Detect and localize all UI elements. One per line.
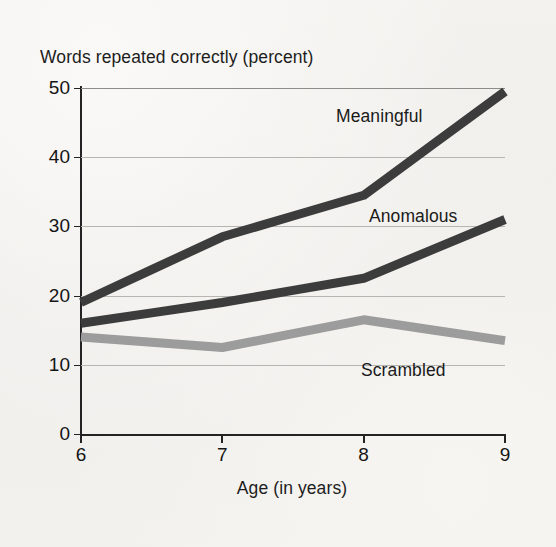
x-tick-mark-8 [363,434,365,443]
plot-area: 01020304050 6789 Meaningful Anomalous Sc… [81,88,505,434]
series-label-anomalous: Anomalous [369,206,457,227]
y-tick-label-40: 40 [49,146,70,168]
x-tick-label-7: 7 [217,444,228,466]
y-tick-mark-20 [74,296,81,297]
y-tick-label-0: 0 [59,423,70,445]
y-tick-label-10: 10 [49,354,70,376]
series-line-scrambled [81,320,505,348]
x-tick-mark-9 [504,434,506,443]
y-tick-label-20: 20 [49,285,70,307]
series-label-meaningful: Meaningful [336,106,423,127]
x-tick-mark-7 [221,434,223,443]
y-tick-label-50: 50 [49,77,70,99]
y-axis-caption: Words repeated correctly (percent) [40,47,313,68]
y-tick-label-30: 30 [49,215,70,237]
figure-page: Words repeated correctly (percent) 01020… [0,0,556,547]
x-axis-caption-text: Age (in years) [209,478,347,498]
series-line-meaningful [81,92,505,303]
line-chart-figure: Words repeated correctly (percent) 01020… [0,0,556,547]
x-tick-label-9: 9 [500,444,511,466]
x-tick-mark-6 [80,434,82,443]
series-label-scrambled: Scrambled [361,360,446,381]
x-axis-line [80,434,506,436]
x-axis-caption: Age (in years) [0,478,556,499]
x-tick-label-8: 8 [358,444,369,466]
x-tick-label-6: 6 [76,444,87,466]
y-tick-mark-10 [74,365,81,366]
series-lines [81,88,505,434]
y-tick-mark-50 [74,88,81,89]
y-tick-mark-30 [74,226,81,227]
y-tick-mark-40 [74,157,81,158]
